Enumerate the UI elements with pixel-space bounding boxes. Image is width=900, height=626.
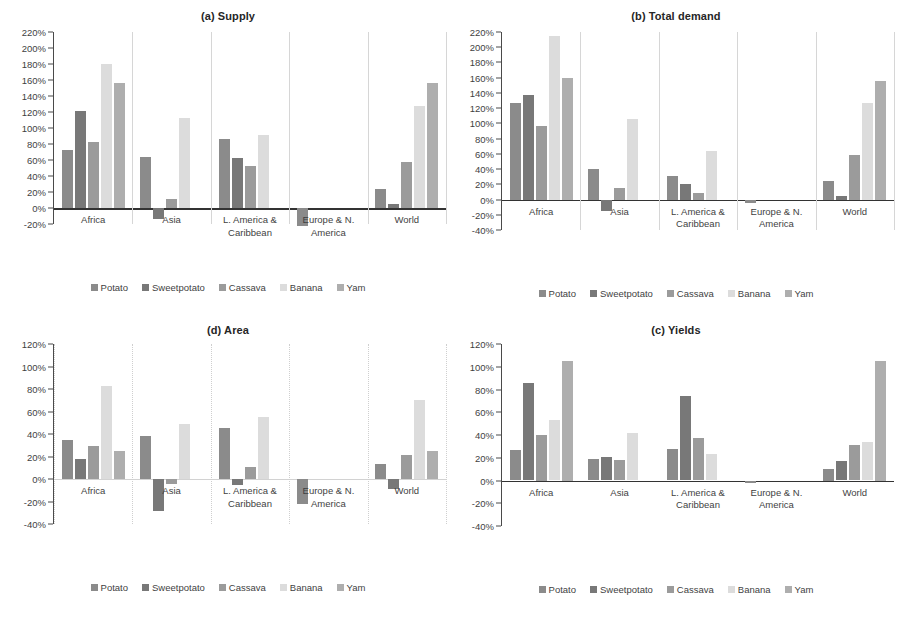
bar[interactable]	[258, 135, 269, 208]
legend-item[interactable]: Cassava	[667, 288, 714, 299]
bar[interactable]	[862, 103, 873, 200]
bar-slot	[627, 32, 638, 230]
bar[interactable]	[614, 460, 625, 480]
legend-item[interactable]: Yam	[337, 282, 366, 293]
y-tick-label: 80%	[27, 139, 46, 150]
bar[interactable]	[745, 481, 756, 483]
bar[interactable]	[523, 95, 534, 199]
legend-item[interactable]: Potato	[539, 584, 576, 595]
bar[interactable]	[88, 142, 99, 208]
bar[interactable]	[667, 449, 678, 481]
bar[interactable]	[375, 189, 386, 208]
bar-slot	[297, 32, 308, 224]
bar[interactable]	[114, 83, 125, 208]
bar[interactable]	[680, 184, 691, 200]
bar[interactable]	[849, 445, 860, 480]
bar[interactable]	[627, 119, 638, 200]
bar[interactable]	[693, 438, 704, 480]
bar[interactable]	[875, 361, 886, 480]
bar[interactable]	[706, 454, 717, 480]
legend-item[interactable]: Banana	[280, 282, 323, 293]
bar[interactable]	[62, 150, 73, 208]
bar[interactable]	[614, 188, 625, 199]
bar[interactable]	[549, 420, 560, 480]
legend-item[interactable]: Potato	[91, 582, 128, 593]
bar[interactable]	[414, 106, 425, 208]
bar[interactable]	[232, 158, 243, 208]
legend-item[interactable]: Yam	[337, 582, 366, 593]
bar[interactable]	[836, 461, 847, 480]
bar[interactable]	[375, 464, 386, 479]
bar[interactable]	[627, 433, 638, 481]
bar[interactable]	[388, 204, 399, 208]
bar[interactable]	[510, 103, 521, 200]
bar[interactable]	[427, 83, 438, 208]
bar-group	[580, 32, 658, 230]
bar[interactable]	[179, 424, 190, 479]
legend-item[interactable]: Cassava	[219, 582, 266, 593]
legend-item[interactable]: Cassava	[667, 584, 714, 595]
bar[interactable]	[562, 78, 573, 199]
bar[interactable]	[219, 428, 230, 479]
bar[interactable]	[536, 126, 547, 199]
bar[interactable]	[523, 383, 534, 481]
bar[interactable]	[166, 479, 177, 484]
bar[interactable]	[166, 199, 177, 208]
bar[interactable]	[706, 151, 717, 200]
legend-item[interactable]: Sweetpotato	[590, 288, 653, 299]
bar[interactable]	[140, 436, 151, 479]
y-tick-label: 40%	[475, 430, 494, 441]
bar[interactable]	[588, 169, 599, 199]
bar[interactable]	[258, 417, 269, 479]
bar[interactable]	[232, 479, 243, 485]
bar[interactable]	[219, 139, 230, 208]
bar[interactable]	[114, 451, 125, 479]
bar[interactable]	[75, 111, 86, 208]
bar[interactable]	[849, 155, 860, 199]
legend-item[interactable]: Potato	[91, 282, 128, 293]
bar[interactable]	[536, 435, 547, 481]
legend: PotatoSweetpotatoCassavaBananaYam	[8, 282, 448, 293]
legend-item[interactable]: Cassava	[219, 282, 266, 293]
bar[interactable]	[414, 400, 425, 479]
legend-item[interactable]: Sweetpotato	[142, 582, 205, 593]
bar[interactable]	[823, 469, 834, 480]
bar[interactable]	[862, 442, 873, 481]
legend-item[interactable]: Yam	[785, 584, 814, 595]
bar-slot	[140, 32, 151, 224]
bar[interactable]	[693, 193, 704, 199]
bar[interactable]	[401, 455, 412, 479]
y-tick-label: 40%	[27, 171, 46, 182]
legend-item[interactable]: Sweetpotato	[142, 282, 205, 293]
bar[interactable]	[427, 451, 438, 479]
bar[interactable]	[140, 157, 151, 208]
bar[interactable]	[401, 162, 412, 208]
bar[interactable]	[875, 81, 886, 200]
legend-item[interactable]: Banana	[728, 288, 771, 299]
bar[interactable]	[75, 459, 86, 479]
bar[interactable]	[601, 457, 612, 481]
legend-item[interactable]: Banana	[280, 582, 323, 593]
legend-item[interactable]: Potato	[539, 288, 576, 299]
legend-swatch-icon	[728, 586, 735, 593]
bar[interactable]	[101, 64, 112, 208]
category-label: World	[816, 487, 894, 512]
bar[interactable]	[245, 467, 256, 479]
legend-item[interactable]: Sweetpotato	[590, 584, 653, 595]
bar[interactable]	[836, 196, 847, 199]
bar[interactable]	[101, 386, 112, 479]
bar[interactable]	[88, 446, 99, 479]
bar[interactable]	[549, 36, 560, 200]
legend-item[interactable]: Yam	[785, 288, 814, 299]
bar[interactable]	[510, 450, 521, 481]
bar[interactable]	[823, 181, 834, 199]
bar[interactable]	[245, 166, 256, 208]
bar[interactable]	[588, 459, 599, 481]
bar[interactable]	[179, 118, 190, 208]
bar[interactable]	[745, 200, 756, 204]
legend-item[interactable]: Banana	[728, 584, 771, 595]
bar[interactable]	[667, 176, 678, 200]
bar[interactable]	[62, 440, 73, 479]
bar[interactable]	[680, 396, 691, 480]
bar[interactable]	[562, 361, 573, 480]
